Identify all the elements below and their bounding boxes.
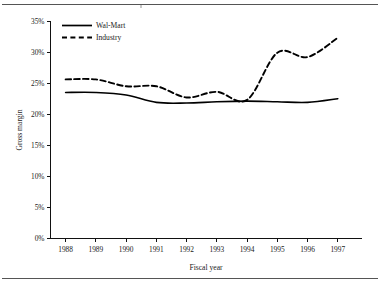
x-tick-label-1993: 1993 — [209, 245, 224, 254]
y-tick-label-0%: 0% — [35, 234, 45, 243]
x-tick-label-1989: 1989 — [88, 245, 103, 254]
y-tick-label-5%: 5% — [35, 203, 45, 212]
x-tick-label-1997: 1997 — [330, 245, 345, 254]
y-tick-label-25%: 25% — [31, 79, 45, 88]
bottom-divider-rule — [2, 278, 378, 279]
x-tick-label-1990: 1990 — [119, 245, 134, 254]
x-axis-title: Fiscal year — [189, 263, 223, 272]
x-tick-label-1994: 1994 — [240, 245, 255, 254]
legend-label-industry: Industry — [96, 33, 122, 42]
x-tick-label-1996: 1996 — [300, 245, 315, 254]
x-tick-label-1991: 1991 — [149, 245, 164, 254]
y-axis-title: Gross margin — [15, 109, 24, 150]
y-tick-label-20%: 20% — [31, 110, 45, 119]
x-axis-tick-labels: 1988198919901991199219931994199519961997 — [58, 245, 345, 254]
x-tick-label-1988: 1988 — [58, 245, 73, 254]
figure-root: 0%5%10%15%20%25%30%35% 19881989199019911… — [0, 0, 380, 286]
x-tick-label-1995: 1995 — [270, 245, 285, 254]
series-line-industry — [66, 38, 338, 102]
x-tick-label-1992: 1992 — [179, 245, 194, 254]
y-tick-label-30%: 30% — [31, 48, 45, 57]
y-tick-label-35%: 35% — [31, 17, 45, 26]
y-tick-label-10%: 10% — [31, 172, 45, 181]
chart-legend: Wal-Mart Industry — [62, 21, 126, 42]
y-tick-label-15%: 15% — [31, 141, 45, 150]
top-divider-rule — [2, 4, 378, 5]
y-axis-tick-labels: 0%5%10%15%20%25%30%35% — [31, 17, 45, 244]
legend-label-wal-mart: Wal-Mart — [96, 21, 126, 30]
gross-margin-chart: 0%5%10%15%20%25%30%35% 19881989199019911… — [0, 8, 380, 278]
